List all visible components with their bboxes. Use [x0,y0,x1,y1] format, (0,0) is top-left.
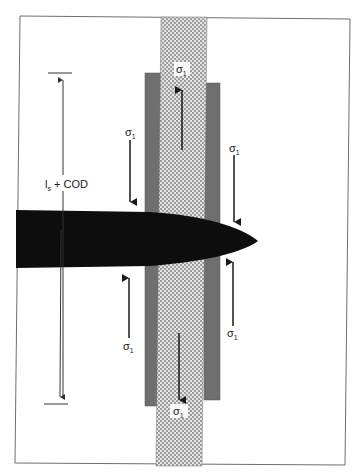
crack-bridging-diagram: ls + COD σ1 σ1 σ1 σ1 σ1 σ1 [0,0,363,476]
dimension-label: ls + COD [45,178,88,192]
